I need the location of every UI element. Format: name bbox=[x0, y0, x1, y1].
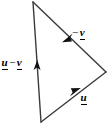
triangle-edges bbox=[33, 2, 106, 122]
label-u-minus-v-first-symbol: u bbox=[1, 57, 8, 68]
label-u: u bbox=[80, 92, 87, 103]
label-minus-v-operator: − bbox=[71, 26, 79, 38]
label-minus-v: −v bbox=[71, 27, 85, 38]
lower-right-edge-line bbox=[41, 72, 106, 122]
vector-triangle-figure: u−v −v u bbox=[0, 0, 112, 128]
arrowheads bbox=[34, 33, 81, 96]
label-minus-v-symbol: v bbox=[79, 27, 85, 38]
label-u-minus-v-second-symbol: v bbox=[16, 57, 22, 68]
label-u-symbol: u bbox=[80, 92, 87, 103]
label-u-minus-v: u−v bbox=[1, 57, 22, 68]
label-u-minus-v-operator: − bbox=[8, 56, 16, 68]
